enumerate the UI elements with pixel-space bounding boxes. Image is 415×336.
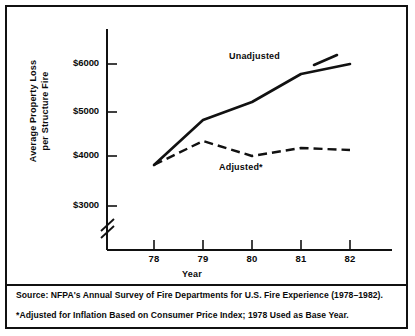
x-axis-label-78: 78 [139,253,169,264]
x-axis-label-79: 79 [188,253,218,264]
x-axis-label-82: 82 [335,253,365,264]
footnotes-block: Source: NFPA's Annual Survey of Fire Dep… [16,290,401,321]
footnote-adjustment: *Adjusted for Inflation Based on Consume… [16,310,401,322]
footnote-source: Source: NFPA's Annual Survey of Fire Dep… [16,290,401,302]
series-label-unadjusted: Unadjusted [229,51,280,61]
figure-frame: Average Property Loss per Structure Fire… [5,5,408,329]
x-axis-label-81: 81 [286,253,316,264]
y-axis-ticks [107,64,117,206]
x-axis-tick-labels: 78 79 80 81 82 [7,253,406,269]
footer-divider [7,284,406,286]
unadjusted-leader-stroke [314,55,337,65]
series-label-adjusted: Adjusted* [219,162,263,172]
y-axis-label-5000: $5000 [43,106,99,116]
x-axis-title: Year [132,269,252,279]
y-axis-label-6000: $6000 [43,58,99,68]
x-axis-ticks [154,240,350,250]
chart-plot-area: Average Property Loss per Structure Fire… [7,7,406,262]
y-axis-label-4000: $4000 [43,150,99,160]
x-axis-label-80: 80 [237,253,267,264]
y-axis-label-3000: $3000 [43,200,99,210]
y-axis-tick-labels: $6000 $5000 $4000 $3000 [37,7,99,262]
